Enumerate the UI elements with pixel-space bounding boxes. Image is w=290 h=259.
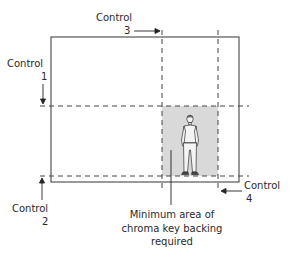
control-4-number: 4	[246, 193, 252, 205]
dashed-control-lines	[40, 30, 249, 192]
arrow-down-icon	[41, 99, 46, 104]
caption-line-2: chroma key backing	[112, 222, 232, 236]
arrow-right-icon	[155, 29, 160, 34]
control-1-number: 1	[41, 71, 47, 83]
arrow-left-icon	[221, 189, 226, 194]
control-3-number: 3	[124, 25, 130, 37]
control-3-label: Control	[96, 12, 132, 24]
control-4-label: Control	[244, 180, 280, 192]
arrow-up-icon	[40, 178, 45, 183]
caption-line-3: required	[112, 235, 232, 249]
caption-line-1: Minimum area of	[112, 208, 232, 222]
control-2-label: Control	[12, 203, 48, 215]
control-1-label: Control	[7, 58, 43, 70]
control-2-number: 2	[42, 216, 48, 228]
caption: Minimum area of chroma key backing requi…	[112, 208, 232, 249]
